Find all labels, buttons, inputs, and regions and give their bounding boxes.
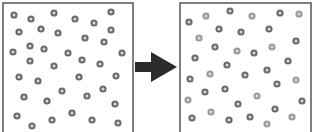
particle-center (114, 103, 117, 106)
particle-center (194, 57, 197, 60)
particle-center (61, 90, 64, 93)
particle-center (93, 22, 96, 25)
particle-center (84, 37, 87, 40)
particle-center (121, 52, 124, 55)
particle-center (18, 76, 21, 79)
particle-center (102, 88, 105, 91)
particle-center (40, 28, 43, 31)
right-container-after (180, 3, 311, 132)
particle-center (23, 96, 26, 99)
particle-center (16, 115, 19, 118)
container-frame (180, 3, 311, 132)
particle-center (29, 45, 32, 48)
diagram-canvas (0, 0, 313, 132)
particle-center (198, 37, 201, 40)
particle-center (276, 83, 279, 86)
particle-center (271, 46, 274, 49)
particle-center (12, 51, 15, 54)
particle-center (274, 108, 277, 111)
particle-center (237, 103, 240, 106)
particle-center (214, 46, 217, 49)
particle-center (249, 116, 252, 119)
particle-center (43, 48, 46, 51)
particle-center (251, 15, 254, 18)
particle-center (78, 76, 81, 79)
particle-center (279, 12, 282, 15)
particle-center (187, 99, 190, 102)
particle-center (204, 91, 207, 94)
particle-center (205, 15, 208, 18)
particle-center (13, 14, 16, 17)
particle-center (210, 111, 213, 114)
particle-center (295, 79, 298, 82)
particle-center (110, 29, 113, 32)
particle-center (81, 59, 84, 62)
particle-center (53, 12, 56, 15)
particle-center (244, 74, 247, 77)
particle-center (18, 31, 21, 34)
right-arrow-icon (135, 52, 177, 82)
particle-center (74, 18, 77, 21)
particle-center (99, 63, 102, 66)
particle-center (266, 69, 269, 72)
particle-center (91, 119, 94, 122)
particle-center (236, 50, 239, 53)
particle-center (115, 75, 118, 78)
particle-center (103, 41, 106, 44)
particle-center (30, 18, 33, 21)
particle-center (53, 65, 56, 68)
particle-center (253, 52, 256, 55)
particle-center (29, 60, 32, 63)
particle-center (117, 122, 120, 125)
container-frame (3, 3, 133, 132)
particle-center (228, 119, 231, 122)
particle-center (209, 73, 212, 76)
particle-center (110, 11, 113, 14)
particle-center (86, 95, 89, 98)
particle-center (266, 123, 269, 126)
particle-center (226, 64, 229, 67)
particle-center (291, 116, 294, 119)
particle-center (218, 28, 221, 31)
particle-center (229, 10, 232, 13)
particle-center (191, 117, 194, 120)
particle-center (189, 78, 192, 81)
particle-center (46, 100, 49, 103)
particle-center (240, 31, 243, 34)
particle-center (51, 119, 54, 122)
particle-center (188, 21, 191, 24)
particle-center (268, 28, 271, 31)
left-container-before (3, 3, 133, 132)
particle-center (57, 32, 60, 35)
particle-center (224, 88, 227, 91)
particle-center (287, 60, 290, 63)
particle-center (295, 40, 298, 43)
particle-center (301, 100, 304, 103)
particle-center (298, 13, 301, 16)
particle-center (31, 125, 34, 128)
particle-center (37, 80, 40, 83)
particle-center (71, 112, 74, 115)
particle-center (67, 52, 70, 55)
particle-center (256, 95, 259, 98)
